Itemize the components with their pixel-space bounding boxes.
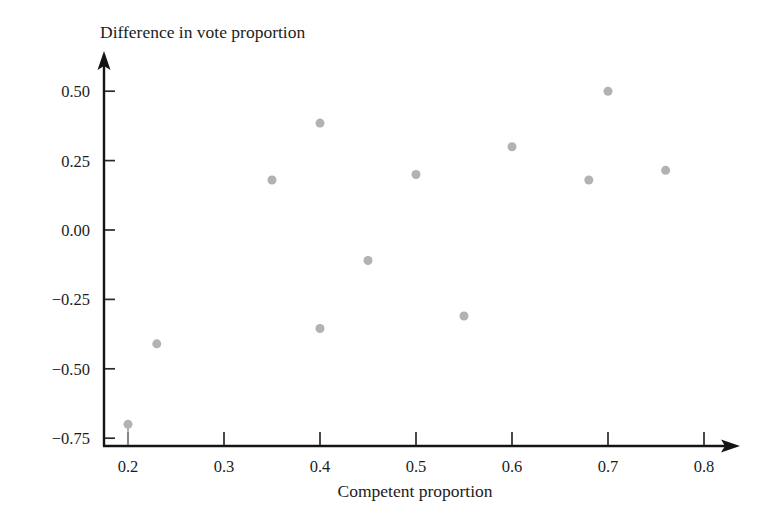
plot-canvas: Difference in vote proportion Competent …	[0, 0, 778, 522]
data-point	[604, 87, 613, 96]
x-axis-ticks	[128, 432, 704, 445]
y-tick-label: −0.50	[52, 360, 90, 379]
y-axis-tick-labels: 0.500.250.00−0.25−0.50−0.75	[52, 82, 90, 448]
x-tick-label: 0.6	[502, 457, 523, 476]
y-axis-title: Difference in vote proportion	[100, 22, 305, 42]
data-points	[124, 87, 671, 429]
y-tick-label: 0.00	[61, 221, 90, 240]
y-tick-label: 0.25	[61, 152, 90, 171]
x-tick-label: 0.3	[214, 457, 235, 476]
scatter-plot-figure: Difference in vote proportion Competent …	[0, 0, 778, 522]
data-point	[460, 312, 469, 321]
data-point	[412, 170, 421, 179]
x-axis-tick-labels: 0.20.30.40.50.60.70.8	[118, 457, 715, 476]
data-point	[152, 339, 161, 348]
data-point	[316, 119, 325, 128]
x-tick-label: 0.4	[310, 457, 331, 476]
x-tick-label: 0.8	[694, 457, 715, 476]
x-axis-title: Competent proportion	[337, 481, 492, 501]
data-point	[584, 176, 593, 185]
data-point	[661, 166, 670, 175]
y-tick-label: 0.50	[61, 82, 90, 101]
x-tick-label: 0.5	[406, 457, 427, 476]
data-point	[508, 142, 517, 151]
data-point	[316, 324, 325, 333]
data-point	[124, 420, 133, 429]
x-tick-label: 0.7	[598, 457, 619, 476]
data-point	[364, 256, 373, 265]
y-axis-ticks	[105, 91, 115, 438]
x-tick-label: 0.2	[118, 457, 139, 476]
y-tick-label: −0.75	[52, 429, 90, 448]
y-tick-label: −0.25	[52, 290, 90, 309]
data-point	[268, 176, 277, 185]
